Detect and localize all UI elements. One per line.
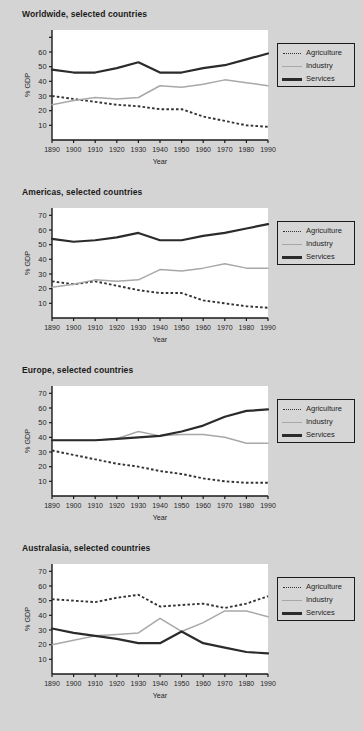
legend-swatch-industry-icon — [282, 241, 302, 248]
x-tick-label: 1910 — [87, 680, 103, 687]
legend-item-agriculture: Agriculture — [282, 403, 342, 415]
x-tick-label: 1900 — [66, 324, 82, 331]
legend-item-industry: Industry — [282, 594, 333, 606]
y-tick-label: 20 — [38, 106, 46, 115]
x-tick-label: 1910 — [87, 502, 103, 509]
y-tick-label: 50 — [38, 240, 46, 249]
legend: Agriculture Industry Services — [277, 221, 355, 265]
legend-label-industry: Industry — [306, 62, 333, 70]
x-tick-label: 1940 — [152, 146, 168, 153]
y-tick-label: 50 — [38, 418, 46, 427]
legend-swatch-services-icon — [282, 610, 302, 617]
legend-item-agriculture: Agriculture — [282, 581, 342, 593]
x-tick-label: 1930 — [131, 146, 147, 153]
legend-swatch-industry-icon — [282, 63, 302, 70]
x-tick-label: 1950 — [174, 324, 190, 331]
x-tick-label: 1920 — [109, 680, 125, 687]
y-tick-label: 60 — [38, 582, 46, 591]
legend-label-industry: Industry — [306, 240, 333, 248]
x-tick-label: 1900 — [66, 502, 82, 509]
legend: Agriculture Industry Services — [277, 577, 355, 621]
legend-item-industry: Industry — [282, 60, 333, 72]
x-tick-label: 1990 — [260, 324, 276, 331]
legend-label-services: Services — [306, 609, 335, 617]
legend-swatch-industry-icon — [282, 419, 302, 426]
x-tick-label: 1940 — [152, 680, 168, 687]
x-tick-label: 1940 — [152, 502, 168, 509]
x-axis-title: Year — [153, 691, 168, 700]
x-tick-label: 1930 — [131, 324, 147, 331]
legend-swatch-services-icon — [282, 254, 302, 261]
x-tick-label: 1990 — [260, 502, 276, 509]
x-tick-label: 1990 — [260, 146, 276, 153]
y-tick-label: 20 — [38, 462, 46, 471]
y-tick-label: 50 — [38, 596, 46, 605]
legend-label-agriculture: Agriculture — [306, 227, 342, 235]
x-tick-label: 1890 — [44, 680, 60, 687]
x-tick-label: 1960 — [195, 680, 211, 687]
x-tick-label: 1950 — [174, 680, 190, 687]
y-tick-label: 60 — [38, 404, 46, 413]
legend-item-industry: Industry — [282, 416, 333, 428]
x-tick-label: 1910 — [87, 146, 103, 153]
y-tick-label: 40 — [38, 77, 46, 86]
chart-panel-americas: Americas, selected countries 10203040506… — [0, 178, 363, 353]
x-axis-title: Year — [153, 513, 168, 522]
x-tick-label: 1970 — [217, 324, 233, 331]
x-tick-label: 1940 — [152, 324, 168, 331]
y-axis-title: % GDP — [23, 251, 32, 275]
x-tick-label: 1980 — [239, 502, 255, 509]
legend-swatch-services-icon — [282, 432, 302, 439]
legend-swatch-agriculture-icon — [282, 406, 302, 413]
x-axis-title: Year — [153, 335, 168, 344]
x-tick-label: 1990 — [260, 680, 276, 687]
y-axis-title: % GDP — [23, 607, 32, 631]
panel-title: Australasia, selected countries — [22, 543, 150, 553]
legend-swatch-services-icon — [282, 76, 302, 83]
legend-item-services: Services — [282, 607, 335, 619]
x-tick-label: 1980 — [239, 680, 255, 687]
y-tick-label: 70 — [38, 211, 46, 220]
legend-swatch-agriculture-icon — [282, 584, 302, 591]
legend-item-agriculture: Agriculture — [282, 225, 342, 237]
legend-item-agriculture: Agriculture — [282, 47, 342, 59]
legend-label-services: Services — [306, 431, 335, 439]
x-tick-label: 1920 — [109, 502, 125, 509]
chart-panel-worldwide: Worldwide, selected countries 1020304050… — [0, 0, 363, 175]
legend: Agriculture Industry Services — [277, 399, 355, 443]
y-tick-label: 30 — [38, 92, 46, 101]
legend-label-services: Services — [306, 75, 335, 83]
y-tick-label: 10 — [38, 477, 46, 486]
y-tick-label: 20 — [38, 284, 46, 293]
x-tick-label: 1980 — [239, 146, 255, 153]
panel-title: Americas, selected countries — [22, 187, 142, 197]
y-tick-label: 60 — [38, 48, 46, 57]
x-tick-label: 1950 — [174, 146, 190, 153]
y-tick-label: 40 — [38, 255, 46, 264]
x-tick-label: 1890 — [44, 324, 60, 331]
legend-item-services: Services — [282, 251, 335, 263]
panel-title: Europe, selected countries — [22, 365, 133, 375]
x-tick-label: 1920 — [109, 146, 125, 153]
x-tick-label: 1930 — [131, 502, 147, 509]
chart-panel-australasia: Australasia, selected countries 10203040… — [0, 534, 363, 709]
y-axis-title: % GDP — [23, 73, 32, 97]
x-tick-label: 1950 — [174, 502, 190, 509]
x-tick-label: 1970 — [217, 502, 233, 509]
y-tick-label: 70 — [38, 389, 46, 398]
y-tick-label: 10 — [38, 121, 46, 130]
y-tick-label: 10 — [38, 655, 46, 664]
chart-panel-europe: Europe, selected countries 1020304050607… — [0, 356, 363, 531]
legend-item-services: Services — [282, 73, 335, 85]
x-tick-label: 1980 — [239, 324, 255, 331]
y-axis-title: % GDP — [23, 429, 32, 453]
panel-title: Worldwide, selected countries — [22, 9, 147, 19]
x-axis-title: Year — [153, 157, 168, 166]
figure-page: Worldwide, selected countries 1020304050… — [0, 0, 363, 731]
y-tick-label: 10 — [38, 299, 46, 308]
legend-label-agriculture: Agriculture — [306, 583, 342, 591]
y-tick-label: 70 — [38, 567, 46, 576]
x-tick-label: 1890 — [44, 502, 60, 509]
x-tick-label: 1970 — [217, 146, 233, 153]
x-tick-label: 1960 — [195, 502, 211, 509]
